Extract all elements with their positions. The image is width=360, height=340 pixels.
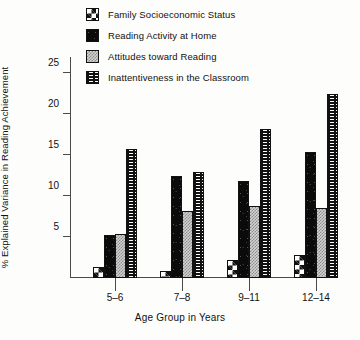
bar bbox=[115, 234, 126, 278]
bar bbox=[160, 271, 171, 278]
x-axis-category-label: 9–11 bbox=[238, 292, 260, 303]
x-axis-tick bbox=[249, 278, 250, 291]
y-axis-tick-label: 5 bbox=[53, 222, 59, 232]
bar bbox=[238, 181, 249, 278]
bar bbox=[249, 206, 260, 278]
bar bbox=[104, 235, 115, 278]
bar bbox=[193, 172, 204, 278]
legend-item[interactable]: Family Socioeconomic Status bbox=[86, 6, 356, 23]
y-axis-tick-label: 25 bbox=[48, 58, 59, 68]
bar bbox=[182, 211, 193, 278]
y-axis-tick bbox=[63, 154, 70, 155]
y-axis-tick bbox=[63, 72, 70, 73]
x-axis-title: Age Group in Years bbox=[0, 312, 360, 323]
x-axis-tick bbox=[316, 278, 317, 291]
legend-label: Family Socioeconomic Status bbox=[108, 9, 235, 20]
bar-group: 7–8 bbox=[160, 57, 204, 278]
x-axis-category-label: 12–14 bbox=[302, 292, 330, 303]
bar bbox=[316, 208, 327, 278]
reading-achievement-bar-chart: Family Socioeconomic StatusReading Activ… bbox=[0, 0, 360, 340]
y-axis-title: % Explained Variance in Reading Achievem… bbox=[0, 57, 12, 278]
bar-group: 9–11 bbox=[227, 57, 271, 278]
bar-group: 12–14 bbox=[294, 57, 338, 278]
legend-label: Reading Activity at Home bbox=[108, 30, 217, 41]
bar bbox=[260, 129, 271, 278]
y-axis-tick-label: 15 bbox=[48, 140, 59, 150]
y-axis-tick-label: 10 bbox=[48, 181, 59, 191]
x-axis-category-label: 5–6 bbox=[107, 292, 124, 303]
legend-swatch-solid-black-icon bbox=[86, 29, 99, 42]
bar bbox=[93, 267, 104, 278]
bar bbox=[327, 94, 338, 278]
legend-item[interactable]: Reading Activity at Home bbox=[86, 27, 356, 44]
y-axis-title-text: % Explained Variance in Reading Achievem… bbox=[0, 67, 11, 269]
y-axis-tick bbox=[63, 113, 70, 114]
bar bbox=[171, 176, 182, 278]
x-axis-tick bbox=[115, 278, 116, 291]
bar bbox=[305, 152, 316, 278]
y-axis-tick bbox=[63, 195, 70, 196]
bar-group: 5–6 bbox=[93, 57, 137, 278]
legend-swatch-checkerboard-icon bbox=[86, 8, 99, 21]
bar bbox=[294, 255, 305, 278]
y-axis-tick-label: 20 bbox=[48, 99, 59, 109]
bar bbox=[126, 149, 137, 278]
x-axis-tick bbox=[182, 278, 183, 291]
bar bbox=[227, 260, 238, 278]
x-axis-category-label: 7–8 bbox=[174, 292, 191, 303]
y-axis-tick bbox=[63, 236, 70, 237]
plot-area: 5101520255–67–89–1112–14 bbox=[70, 57, 338, 278]
